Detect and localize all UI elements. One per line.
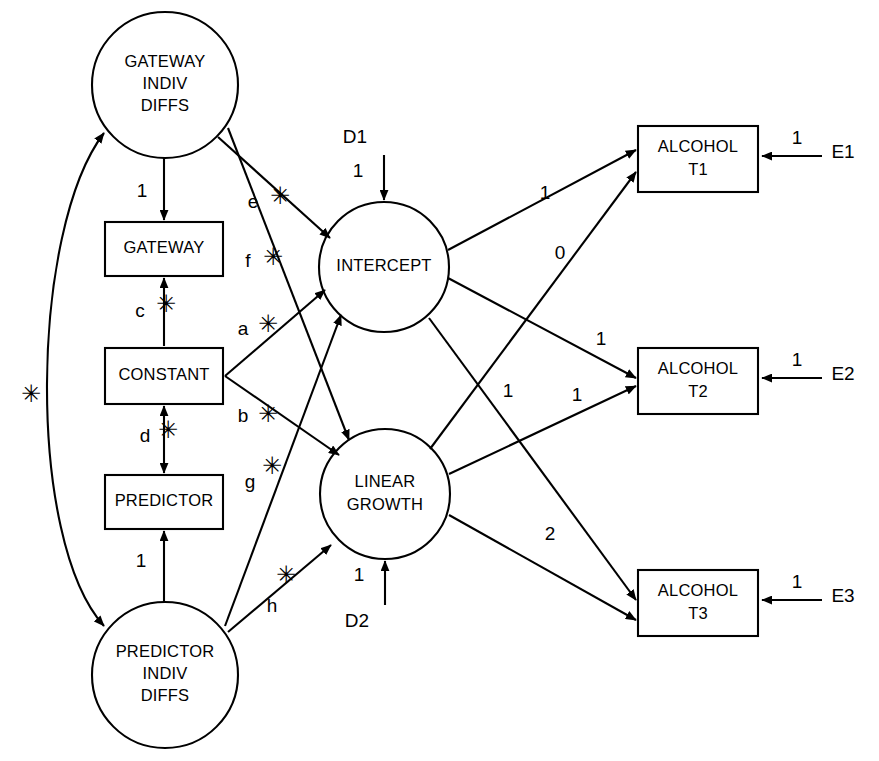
sem-path-diagram: GATEWAY INDIV DIFFS INTERCEPT LINEAR GRO… (0, 0, 879, 761)
linear-growth-label-line2: GROWTH (347, 495, 423, 513)
e1-label: E1 (831, 141, 854, 162)
coef-e1-loading: 1 (792, 127, 803, 148)
observed-box-predictor: PREDICTOR (105, 475, 223, 529)
coef-e2-loading: 1 (792, 349, 803, 370)
linear-growth-label-line1: LINEAR (355, 472, 416, 490)
asterisk-icon-g: ✳ (262, 452, 282, 480)
alcohol-t1-box (638, 126, 758, 192)
path-growth-to-alcohol-t1 (430, 172, 636, 449)
asterisk-icon-e: ✳ (270, 182, 290, 210)
observed-box-gateway: GATEWAY (105, 222, 223, 276)
alcohol-t2-label-line1: ALCOHOL (658, 359, 738, 377)
free-param-h-label: h (267, 595, 278, 616)
e2-label: E2 (831, 363, 854, 384)
alcohol-t3-label-line1: ALCOHOL (658, 581, 738, 599)
gateway-indiv-diffs-label-line3: DIFFS (141, 96, 190, 114)
coef-intercept-to-t3: 1 (503, 380, 514, 401)
latent-circle-gateway-indiv-diffs: GATEWAY INDIV DIFFS (92, 12, 238, 158)
coef-predictor-loading: 1 (136, 550, 147, 571)
free-param-f-label: f (245, 250, 251, 271)
path-indiv-diffs-covariance (47, 133, 104, 626)
asterisk-icon-f: ✳ (263, 243, 283, 271)
coef-intercept-to-t1: 1 (540, 182, 551, 203)
constant-box-label: CONSTANT (118, 365, 209, 383)
alcohol-t3-label-line2: T3 (688, 604, 708, 622)
path-growth-to-alcohol-t2 (449, 386, 636, 474)
free-param-a-label: a (238, 318, 249, 339)
alcohol-t2-box (638, 348, 758, 414)
predictor-indiv-diffs-label-line1: PREDICTOR (116, 642, 215, 660)
coef-e3-loading: 1 (792, 571, 803, 592)
latent-circle-intercept: INTERCEPT (319, 202, 449, 332)
free-param-e-label: e (248, 191, 259, 212)
coef-d1-loading: 1 (353, 160, 364, 181)
coef-d2-loading: 1 (354, 564, 365, 585)
d2-label: D2 (345, 610, 369, 631)
e3-label: E3 (831, 585, 854, 606)
intercept-label: INTERCEPT (336, 256, 431, 274)
asterisk-icon-a: ✳ (258, 310, 278, 338)
observed-box-alcohol-t1: ALCOHOL T1 (638, 126, 758, 192)
coef-gateway-loading: 1 (137, 180, 148, 201)
alcohol-t1-label-line1: ALCOHOL (658, 137, 738, 155)
path-growth-to-alcohol-t3 (449, 515, 636, 620)
gateway-indiv-diffs-label-line2: INDIV (142, 74, 187, 92)
asterisk-icon-d: ✳ (158, 416, 178, 444)
asterisk-icon-covariance: ✳ (21, 380, 41, 408)
predictor-indiv-diffs-label-line3: DIFFS (141, 686, 190, 704)
asterisk-icon-b: ✳ (258, 400, 278, 428)
path-intercept-to-alcohol-t2 (448, 278, 636, 378)
coef-intercept-to-t2: 1 (596, 328, 607, 349)
coef-growth-to-t2: 1 (572, 384, 583, 405)
diagram-canvas: GATEWAY INDIV DIFFS INTERCEPT LINEAR GRO… (0, 0, 879, 761)
observed-box-alcohol-t3: ALCOHOL T3 (638, 570, 758, 636)
predictor-indiv-diffs-label-line2: INDIV (142, 664, 187, 682)
observed-box-alcohol-t2: ALCOHOL T2 (638, 348, 758, 414)
predictor-box-label: PREDICTOR (115, 491, 214, 509)
free-param-c-label: c (135, 300, 145, 321)
latent-circle-predictor-indiv-diffs: PREDICTOR INDIV DIFFS (92, 602, 238, 748)
coef-growth-to-t1: 0 (555, 242, 566, 263)
asterisk-icon-h: ✳ (276, 561, 296, 589)
free-param-d-label: d (140, 425, 151, 446)
alcohol-t2-label-line2: T2 (688, 382, 708, 400)
gateway-indiv-diffs-label-line1: GATEWAY (125, 52, 206, 70)
free-param-g-label: g (245, 471, 256, 492)
asterisk-icon-c: ✳ (156, 290, 176, 318)
d1-label: D1 (343, 126, 367, 147)
alcohol-t3-box (638, 570, 758, 636)
alcohol-t1-label-line2: T1 (688, 160, 708, 178)
coef-growth-to-t3: 2 (545, 523, 556, 544)
gateway-box-label: GATEWAY (124, 238, 205, 256)
free-param-b-label: b (238, 405, 249, 426)
observed-box-constant: CONSTANT (105, 348, 223, 404)
